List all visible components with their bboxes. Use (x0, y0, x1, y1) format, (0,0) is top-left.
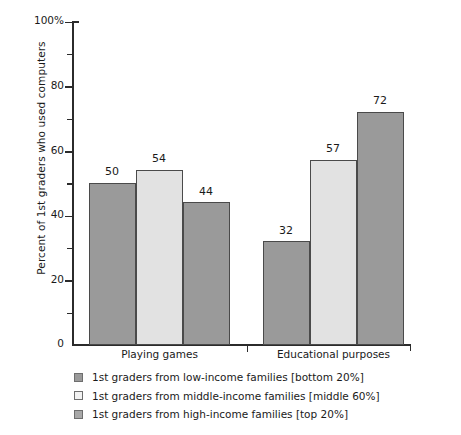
y-tick-30 (67, 248, 73, 249)
bar-playing-games-low-income[interactable] (89, 183, 136, 346)
y-tick-label-80: 80 (24, 79, 64, 91)
y-axis-top-cap (72, 21, 79, 23)
y-tick-60 (65, 151, 73, 153)
y-tick-label-60: 60 (24, 144, 64, 156)
y-tick-70 (67, 119, 73, 120)
bar-label-playing-games-high-income: 44 (184, 185, 228, 198)
legend-label-low-income: 1st graders from low-income families [bo… (92, 371, 364, 383)
y-tick-label-100: 100% (24, 14, 64, 26)
bar-educational-purposes-low-income[interactable] (263, 241, 310, 345)
legend-label-high-income: 1st graders from high-income families [t… (92, 408, 348, 420)
bar-playing-games-middle-income[interactable] (136, 170, 183, 346)
x-category-label-playing-games: Playing games (80, 348, 240, 360)
bar-label-playing-games-low-income: 50 (90, 165, 134, 178)
bar-label-educational-purposes-high-income: 72 (358, 94, 402, 107)
y-tick-10 (67, 313, 73, 314)
x-category-label-educational-purposes: Educational purposes (254, 348, 414, 360)
bar-chart: Percent of 1st graders who used computer… (0, 0, 461, 435)
bar-playing-games-high-income[interactable] (183, 202, 230, 345)
bar-label-playing-games-middle-income: 54 (137, 152, 181, 165)
legend-swatch-low-income (74, 373, 83, 382)
legend-item-middle-income[interactable]: 1st graders from middle-income families … (74, 387, 380, 406)
y-tick-label-20: 20 (24, 273, 64, 285)
y-tick-90 (67, 54, 73, 55)
legend-item-low-income[interactable]: 1st graders from low-income families [bo… (74, 368, 380, 387)
group-separator-tick (247, 345, 249, 352)
legend-swatch-middle-income (74, 391, 83, 400)
bar-label-educational-purposes-low-income: 32 (264, 224, 308, 237)
y-tick-label-40: 40 (24, 208, 64, 220)
bar-educational-purposes-high-income[interactable] (357, 112, 404, 346)
legend-swatch-high-income (74, 410, 83, 419)
legend-label-middle-income: 1st graders from middle-income families … (92, 390, 380, 402)
y-tick-40 (65, 216, 73, 218)
y-tick-50 (67, 183, 73, 184)
y-tick-80 (65, 86, 73, 88)
bar-label-educational-purposes-middle-income: 57 (311, 142, 355, 155)
y-axis-title: Percent of 1st graders who used computer… (35, 13, 47, 303)
bar-educational-purposes-middle-income[interactable] (310, 160, 357, 345)
y-tick-100 (65, 22, 73, 24)
legend: 1st graders from low-income families [bo… (74, 368, 380, 424)
y-tick-20 (65, 280, 73, 282)
legend-item-high-income[interactable]: 1st graders from high-income families [t… (74, 405, 380, 424)
y-tick-label-0: 0 (24, 337, 64, 349)
